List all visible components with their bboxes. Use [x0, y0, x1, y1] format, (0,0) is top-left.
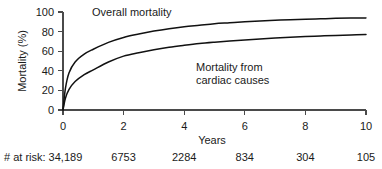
- y-tick-label-80: 80: [42, 26, 54, 38]
- at-risk-count-4: 2284: [172, 151, 196, 163]
- x-axis-ticks: [63, 110, 366, 115]
- at-risk-label: # at risk: 34,189: [4, 151, 82, 163]
- x-tick-label-2: 2: [121, 120, 127, 132]
- at-risk-count-6: 834: [236, 151, 254, 163]
- x-tick-label-10: 10: [360, 120, 372, 132]
- x-tick-label-4: 4: [181, 120, 187, 132]
- at-risk-count-8: 304: [296, 151, 314, 163]
- at-risk-count-2: 6753: [111, 151, 135, 163]
- at-risk-count-10: 105: [357, 151, 375, 163]
- survival-curve-figure: 100 80 60 40 20 0 0 2 4 6 8 10 Mortality…: [0, 0, 382, 169]
- y-tick-label-40: 40: [42, 65, 54, 77]
- annotation-cardiac-line1: Mortality from: [196, 61, 263, 73]
- y-tick-label-100: 100: [36, 6, 54, 18]
- chart-canvas: 100 80 60 40 20 0 0 2 4 6 8 10 Mortality…: [0, 0, 382, 169]
- x-axis-title: Years: [198, 134, 226, 146]
- y-tick-label-20: 20: [42, 84, 54, 96]
- x-tick-label-8: 8: [302, 120, 308, 132]
- annotation-cardiac-line2: cardiac causes: [196, 74, 270, 86]
- x-tick-label-6: 6: [242, 120, 248, 132]
- y-tick-label-0: 0: [48, 104, 54, 116]
- y-axis-title: Mortality (%): [16, 30, 28, 92]
- y-tick-label-60: 60: [42, 45, 54, 57]
- annotation-overall-mortality: Overall mortality: [92, 6, 172, 18]
- y-axis-ticks: [58, 12, 63, 110]
- x-tick-label-0: 0: [60, 120, 66, 132]
